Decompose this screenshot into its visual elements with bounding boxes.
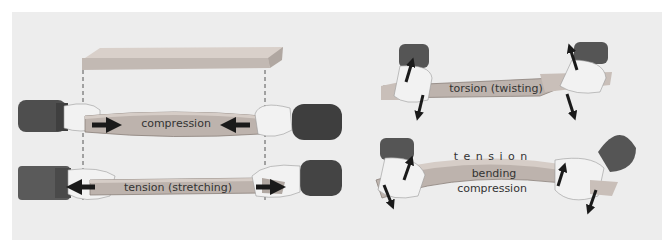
tension-label: tension (stretching) bbox=[124, 182, 232, 193]
right-sleeve bbox=[300, 160, 342, 196]
torsion-label: torsion (twisting) bbox=[449, 83, 543, 94]
torsion-figure bbox=[381, 42, 612, 116]
bending-compression-label: compression bbox=[457, 183, 527, 194]
left-hand bbox=[394, 66, 432, 103]
right-sleeve bbox=[598, 135, 636, 172]
right-sleeve bbox=[292, 104, 342, 140]
right-hand bbox=[255, 105, 292, 136]
bending-tension-label: t e n s i o n bbox=[454, 151, 529, 162]
stress-types-illustration bbox=[0, 0, 667, 250]
left-sleeve bbox=[399, 44, 429, 68]
compression-label: compression bbox=[141, 118, 211, 129]
right-hand bbox=[560, 60, 606, 93]
bending-label: bending bbox=[472, 168, 517, 179]
arrow-down-icon bbox=[567, 94, 574, 116]
left-hand bbox=[378, 158, 425, 198]
unloaded-beam bbox=[82, 47, 283, 70]
left-sleeve bbox=[380, 138, 414, 160]
tension-figure bbox=[18, 160, 342, 200]
